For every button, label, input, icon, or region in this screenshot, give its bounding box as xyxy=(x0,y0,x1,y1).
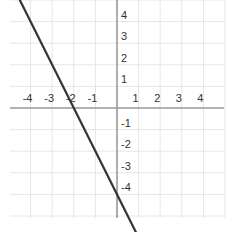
x-tick-label: -4 xyxy=(23,92,33,104)
y-tick-label: -4 xyxy=(121,181,131,193)
y-tick-label: 4 xyxy=(121,9,127,21)
y-tick-label: 1 xyxy=(121,73,127,85)
x-tick-label: 4 xyxy=(197,92,203,104)
x-tick-label: -1 xyxy=(88,92,98,104)
y-tick-labels: 4321-1-2-3-4 xyxy=(121,9,131,194)
y-tick-label: -1 xyxy=(121,117,131,129)
x-tick-label: 3 xyxy=(176,92,182,104)
x-tick-label: 2 xyxy=(154,92,160,104)
y-tick-label: -3 xyxy=(121,160,131,172)
x-tick-labels: -4-3-2-11234 xyxy=(23,92,204,104)
y-tick-label: 3 xyxy=(121,30,127,42)
x-tick-label: -3 xyxy=(44,92,54,104)
axes xyxy=(10,0,224,218)
y-tick-label: 2 xyxy=(121,52,127,64)
y-tick-label: -2 xyxy=(121,138,131,150)
x-tick-label: 1 xyxy=(133,92,139,104)
coordinate-plane: -4-3-2-11234 4321-1-2-3-4 xyxy=(0,0,232,232)
